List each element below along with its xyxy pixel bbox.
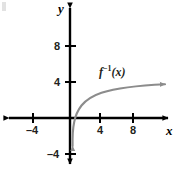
y-tick-label-neg4: –4 (47, 149, 59, 160)
y-axis (65, 8, 76, 164)
curve-label-argument: (x) (112, 65, 126, 79)
graph-figure: y x 8 4 –4 –4 4 8 f−1(x) (0, 0, 177, 172)
curve-function-label: f−1(x) (99, 66, 126, 78)
y-tick-label-4: 4 (54, 77, 60, 88)
x-tick-label-8: 8 (130, 125, 136, 136)
y-axis-label: y (58, 2, 64, 15)
inverse-function-curve (73, 84, 165, 146)
curve-label-exponent: −1 (103, 64, 112, 73)
x-axis-label: x (166, 124, 173, 137)
x-tick-label-neg4: –4 (26, 125, 38, 136)
coordinate-plane-svg (0, 0, 177, 172)
x-tick-label-4: 4 (97, 125, 103, 136)
curve-path (73, 84, 165, 146)
x-axis (9, 113, 168, 123)
y-tick-label-8: 8 (54, 41, 60, 52)
